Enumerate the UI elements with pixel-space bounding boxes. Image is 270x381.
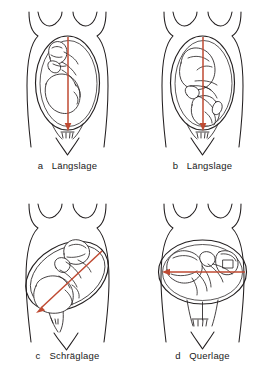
- panel-a: aLängslage: [0, 0, 135, 190]
- fetus-cephalic: [179, 48, 222, 126]
- maternal-torso-outline: [26, 204, 109, 350]
- fetus-transverse: [167, 251, 238, 295]
- cervix-outline: [187, 300, 218, 326]
- fetal-lie-figure: aLängslage: [0, 0, 270, 381]
- panel-d: dQuerlage: [135, 190, 270, 380]
- panel-c-illustration: [0, 190, 135, 353]
- panel-a-label: Längslage: [52, 160, 98, 171]
- panel-b: bLängslage: [135, 0, 270, 190]
- panel-d-caption: dQuerlage: [135, 350, 270, 361]
- panel-b-illustration: [135, 0, 270, 163]
- fetus-breech: [45, 42, 80, 114]
- fetus-oblique: [34, 240, 91, 314]
- panel-b-caption: bLängslage: [135, 160, 270, 171]
- panel-c-label: Schräglage: [49, 350, 99, 361]
- panel-a-caption: aLängslage: [0, 160, 135, 171]
- panel-b-letter: b: [173, 160, 182, 171]
- panel-c-caption: cSchräglage: [0, 350, 135, 361]
- panel-d-letter: d: [175, 350, 184, 361]
- panel-d-illustration: [135, 190, 270, 353]
- panel-d-label: Querlage: [189, 350, 230, 361]
- panel-c-letter: c: [35, 350, 44, 361]
- panel-c: cSchräglage: [0, 190, 135, 380]
- panel-a-illustration: [0, 0, 135, 163]
- panel-a-letter: a: [38, 160, 47, 171]
- panel-b-label: Längslage: [187, 160, 233, 171]
